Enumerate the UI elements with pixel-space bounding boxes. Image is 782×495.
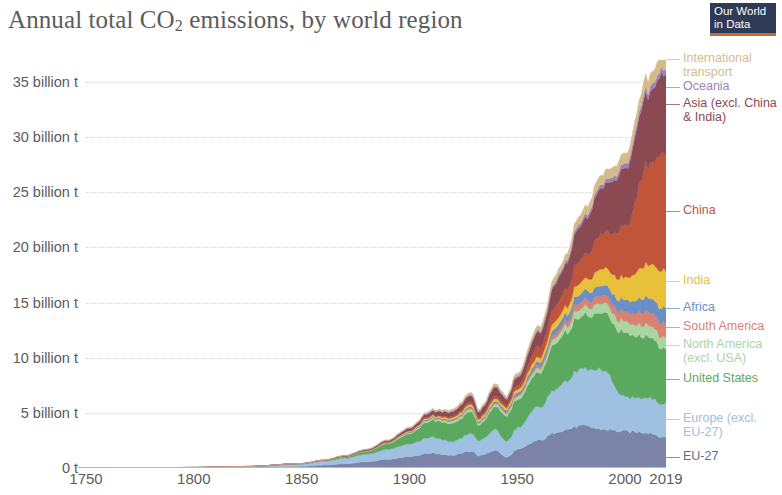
legend-connector-icon [666, 87, 680, 89]
legend-label: Asia (excl. China & India) [683, 97, 782, 124]
legend-label: Europe (excl. EU-27) [683, 412, 782, 439]
logo-line-1: Our World [714, 5, 772, 18]
legend-connector-icon [666, 59, 680, 61]
y-axis: 0 t5 billion t10 billion t15 billion t20… [0, 60, 82, 468]
x-tick-label-2000: 2000 [608, 470, 641, 487]
owid-logo[interactable]: Our World in Data [710, 3, 776, 36]
legend-label: Oceania [683, 80, 782, 94]
legend-connector-icon [666, 379, 680, 381]
y-tick-label-15: 15 billion t [13, 295, 78, 311]
legend-connector-icon [666, 281, 680, 283]
zero-baseline [78, 467, 666, 468]
x-tick-label-1750: 1750 [69, 470, 102, 487]
logo-line-2: in Data [714, 18, 772, 31]
legend-connector-icon [666, 104, 680, 106]
x-axis: 1750180018501900195020002019 [86, 470, 686, 494]
x-tick-label-1800: 1800 [177, 470, 210, 487]
x-tick-label-1850: 1850 [285, 470, 318, 487]
y-tick-label-30: 30 billion t [13, 129, 78, 145]
legend-label: India [683, 274, 782, 288]
plot-area [86, 60, 666, 468]
legend-connector-icon [666, 457, 680, 459]
legend-connector-icon [666, 419, 680, 421]
legend-label: South America [683, 320, 782, 334]
legend-label: United States [683, 372, 782, 386]
legend-label: North America (excl. USA) [683, 338, 782, 365]
legend-connector-icon [666, 327, 680, 329]
y-tick-label-25: 25 billion t [13, 184, 78, 200]
page-title: Annual total CO2 emissions, by world reg… [8, 6, 463, 34]
legend-label: Africa [683, 301, 782, 315]
legend-connector-icon [666, 345, 680, 347]
y-tick-label-35: 35 billion t [13, 74, 78, 90]
legend-label: EU-27 [683, 450, 782, 464]
x-tick-label-2019: 2019 [649, 470, 682, 487]
x-tick-label-1900: 1900 [393, 470, 426, 487]
legend-connector-icon [666, 211, 680, 213]
legend-connector-icon [666, 308, 680, 310]
chart-title-text: Annual total CO2 emissions, by world reg… [8, 6, 463, 33]
legend-label: International transport [683, 52, 782, 79]
chart-legend: International transportOceaniaAsia (excl… [666, 52, 782, 472]
y-tick-label-10: 10 billion t [13, 350, 78, 366]
x-tick-label-1950: 1950 [501, 470, 534, 487]
legend-label: China [683, 204, 782, 218]
y-tick-label-20: 20 billion t [13, 239, 78, 255]
stacked-area-series [86, 60, 666, 468]
y-tick-label-5: 5 billion t [21, 405, 78, 421]
